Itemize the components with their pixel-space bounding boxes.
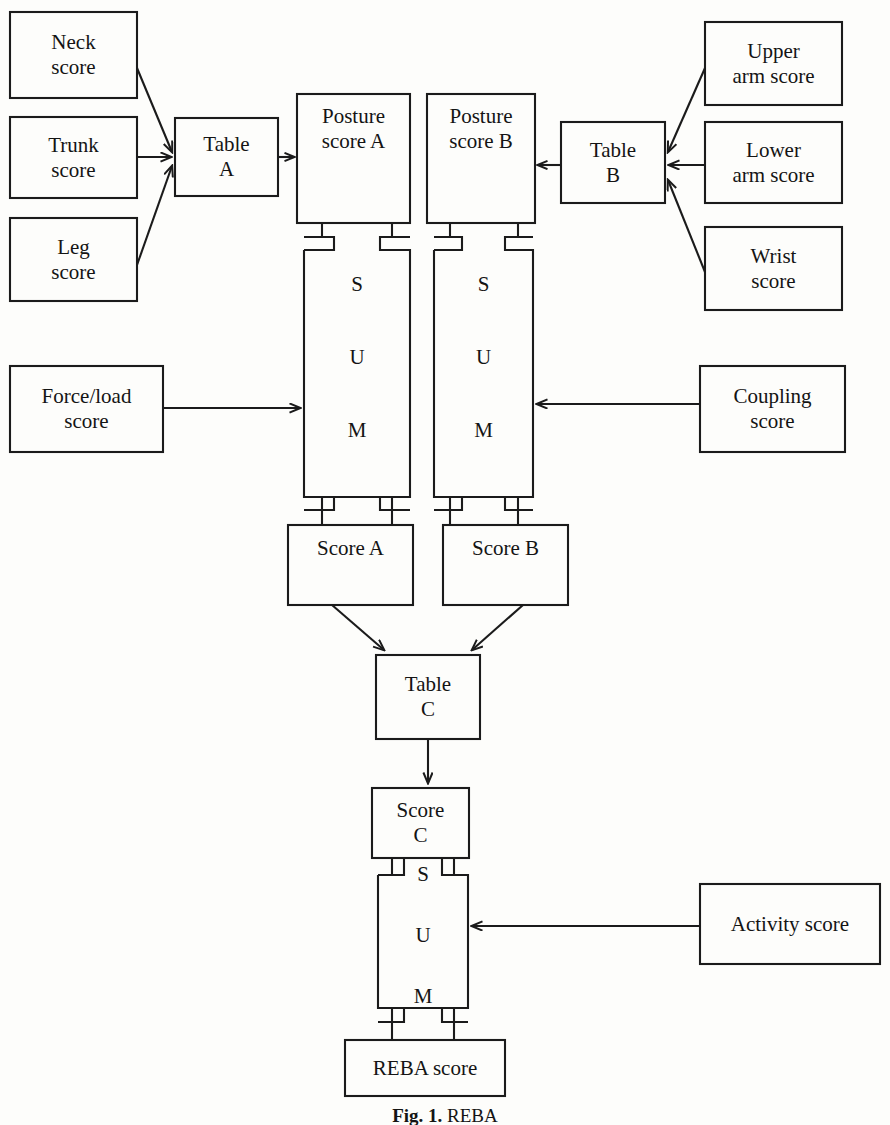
node-table-c xyxy=(376,655,480,739)
label-sum-c: S U M xyxy=(378,862,468,1009)
figure-caption-text: REBA xyxy=(447,1105,498,1125)
node-activity-score xyxy=(700,884,880,964)
sum-b-letter-u: U xyxy=(476,345,491,370)
sum-c-letter-s: S xyxy=(417,862,429,887)
node-sum-b-bottom-notch-left xyxy=(434,497,462,510)
node-upper-arm-score xyxy=(705,22,842,105)
node-force-load-score xyxy=(10,366,163,452)
node-lower-arm-score xyxy=(705,122,842,203)
node-neck-score xyxy=(10,12,137,98)
node-coupling-score xyxy=(700,366,845,452)
node-score-a xyxy=(288,525,413,605)
arrow-neck-to-table-a xyxy=(137,68,172,152)
node-sum-a-bottom-notch-left xyxy=(304,497,334,510)
node-leg-score xyxy=(10,218,137,301)
sum-a-letter-m: M xyxy=(348,418,367,443)
figure-caption: Fig. 1. REBA xyxy=(0,1105,890,1125)
node-table-b xyxy=(561,122,665,203)
node-score-b xyxy=(443,525,568,605)
node-posture-score-b xyxy=(427,94,535,223)
arrow-upper-arm-to-table-b xyxy=(668,68,705,152)
sum-a-letter-s: S xyxy=(351,272,363,297)
label-sum-a: S U M xyxy=(304,272,410,443)
reba-flowchart-figure: Neck score Trunk score Leg score Table A… xyxy=(0,0,890,1125)
sum-c-letter-u: U xyxy=(415,923,430,948)
arrow-leg-to-table-a xyxy=(137,166,172,265)
node-reba-score xyxy=(345,1040,505,1096)
node-wrist-score xyxy=(705,227,842,310)
node-trunk-score xyxy=(10,117,137,198)
label-sum-b: S U M xyxy=(434,272,533,443)
node-table-a xyxy=(175,118,278,196)
sum-b-letter-s: S xyxy=(478,272,490,297)
arrow-score-b-to-table-c xyxy=(472,605,523,650)
sum-b-letter-m: M xyxy=(474,418,493,443)
arrow-score-a-to-table-c xyxy=(332,605,384,650)
sum-a-letter-u: U xyxy=(349,345,364,370)
sum-c-letter-m: M xyxy=(414,984,433,1009)
node-posture-score-a xyxy=(297,94,410,223)
node-sum-a-bottom-notch-right xyxy=(380,497,410,510)
node-score-c xyxy=(372,788,469,858)
arrow-wrist-to-table-b xyxy=(668,180,705,272)
figure-number: Fig. 1. xyxy=(392,1105,442,1125)
